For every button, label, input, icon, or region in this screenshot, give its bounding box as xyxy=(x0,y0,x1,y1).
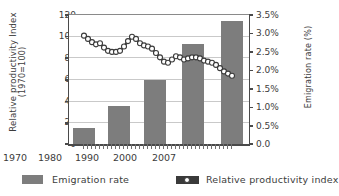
legend-item-relative-productivity-index: Relative productivity index xyxy=(176,174,339,185)
x-axis-minor-tick xyxy=(107,144,108,149)
legend-label-emigration-rate: Emigration rate xyxy=(52,174,129,185)
x-axis-minor-tick xyxy=(171,144,172,149)
x-axis-minor-tick xyxy=(103,144,104,149)
y-right-tick-3-5: 3.5% xyxy=(256,10,300,20)
x-axis-minor-tick xyxy=(219,144,220,149)
x-axis-minor-tick xyxy=(211,144,212,149)
x-axis-minor-tick xyxy=(155,144,156,149)
x-axis-minor-tick xyxy=(207,144,208,149)
x-axis-minor-tick xyxy=(191,144,192,149)
x-label-1990: 1990 xyxy=(67,152,107,163)
x-axis-minor-tick xyxy=(91,144,92,149)
legend-swatch-line-icon xyxy=(176,176,199,184)
x-axis-minor-tick xyxy=(151,144,152,149)
x-axis-minor-tick xyxy=(147,144,148,149)
y-right-tick-2-5: 2.5% xyxy=(256,47,300,57)
x-axis-minor-tick xyxy=(143,144,144,149)
x-axis-minor-tick xyxy=(175,144,176,149)
x-axis-minor-tick xyxy=(139,144,140,149)
x-axis-minor-tick xyxy=(123,144,124,149)
x-axis-minor-tick xyxy=(203,144,204,149)
chart-legend: Emigration rate Relative productivity in… xyxy=(0,172,330,194)
line-marker xyxy=(118,48,123,53)
y-right-tick-0: 0.0 xyxy=(256,139,300,149)
x-axis-minor-tick xyxy=(231,144,232,149)
line-marker xyxy=(158,55,163,60)
y-right-tick-0-5: 0.5% xyxy=(256,121,300,131)
x-axis-minor-tick xyxy=(111,144,112,149)
x-label-1980: 1980 xyxy=(30,152,70,163)
x-axis-minor-tick xyxy=(135,144,136,149)
x-axis-minor-tick xyxy=(131,144,132,149)
x-axis-minor-tick xyxy=(187,144,188,149)
y-right-tick-2-0: 2.0% xyxy=(256,65,300,75)
y-right-tick-1-5: 1.5% xyxy=(256,84,300,94)
line-marker xyxy=(122,44,127,49)
x-axis-minor-tick xyxy=(195,144,196,149)
x-axis-minor-tick xyxy=(95,144,96,149)
line-marker xyxy=(126,39,131,44)
line-marker xyxy=(134,36,139,41)
x-axis-minor-tick xyxy=(227,144,228,149)
x-axis-minor-tick xyxy=(223,144,224,149)
x-axis-minor-tick xyxy=(163,144,164,149)
x-axis-minor-tick xyxy=(159,144,160,149)
x-axis-minor-tick xyxy=(83,144,84,149)
x-axis-minor-tick xyxy=(127,144,128,149)
x-axis-minor-tick xyxy=(115,144,116,149)
x-axis-minor-tick xyxy=(179,144,180,149)
line-marker xyxy=(230,73,235,78)
x-axis-minor-tick xyxy=(199,144,200,149)
x-label-2007: 2007 xyxy=(144,152,184,163)
line-markers xyxy=(82,33,235,78)
legend-item-emigration-rate: Emigration rate xyxy=(22,174,129,185)
x-axis xyxy=(68,144,250,146)
legend-label-relative-productivity-index: Relative productivity index xyxy=(206,174,339,185)
x-axis-minor-tick xyxy=(119,144,120,149)
y-axis-left-title-line1: Relative productivity Index xyxy=(8,12,18,131)
legend-swatch-bar-icon xyxy=(22,175,43,184)
y-right-tick-1-0: 1.0% xyxy=(256,102,300,112)
y-axis-left-title-line2: (1970=100) xyxy=(18,2,28,142)
line-marker xyxy=(150,46,155,51)
x-axis-minor-tick xyxy=(87,144,88,149)
plot-area xyxy=(68,14,250,144)
x-axis-minor-tick xyxy=(215,144,216,149)
y-right-tick-3-0: 3.0% xyxy=(256,28,300,38)
line-marker xyxy=(98,41,103,46)
line-marker xyxy=(154,51,159,56)
y-axis-left-title: Relative productivity Index (1970=100) xyxy=(8,2,28,142)
line-series-relative-productivity-index xyxy=(69,14,251,144)
x-axis-minor-tick xyxy=(167,144,168,149)
x-axis-minor-tick xyxy=(99,144,100,149)
y-axis-right-title: Emigration rate (%) xyxy=(304,0,314,137)
x-axis-minor-tick xyxy=(183,144,184,149)
legend-marker-dot-icon xyxy=(184,177,190,183)
x-label-2000: 2000 xyxy=(105,152,145,163)
